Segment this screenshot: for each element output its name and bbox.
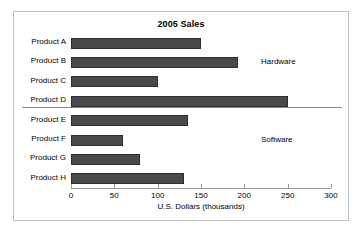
- bar-product-b[interactable]: [71, 57, 238, 68]
- x-axis-tick: [201, 184, 202, 188]
- bar-product-c[interactable]: [71, 76, 158, 87]
- x-axis-tick: [158, 184, 159, 188]
- category-label: Product A: [14, 37, 66, 46]
- bar-product-g[interactable]: [71, 154, 140, 165]
- x-axis-tick: [244, 184, 245, 188]
- category-label: Product D: [14, 95, 66, 104]
- bar-product-a[interactable]: [71, 38, 201, 49]
- table-row: Product G: [14, 150, 350, 169]
- bar-product-h[interactable]: [71, 173, 184, 184]
- x-axis-tick-label: 150: [186, 191, 216, 200]
- bar-product-d[interactable]: [71, 96, 288, 107]
- chart-figure: 2005 Sales Product A Product B Product C…: [13, 11, 349, 221]
- bar-product-e[interactable]: [71, 115, 188, 126]
- category-label: Product H: [14, 173, 66, 182]
- x-axis-tick: [71, 184, 72, 188]
- group-label-software: Software: [261, 135, 293, 144]
- table-row: Product C: [14, 73, 350, 92]
- x-axis-title: U.S. Dollars (thousands): [71, 202, 331, 211]
- plot-area: Product A Product B Product C Product D …: [14, 12, 350, 222]
- category-label: Product E: [14, 115, 66, 124]
- x-axis-tick: [331, 184, 332, 188]
- category-label: Product B: [14, 56, 66, 65]
- x-axis-tick-label: 0: [56, 191, 86, 200]
- category-label: Product G: [14, 153, 66, 162]
- table-row: Product E: [14, 112, 350, 131]
- category-label: Product F: [14, 134, 66, 143]
- category-label: Product C: [14, 76, 66, 85]
- x-axis-line: [71, 188, 331, 189]
- x-axis-tick-label: 300: [316, 191, 346, 200]
- x-axis-tick-label: 100: [143, 191, 173, 200]
- bar-product-f[interactable]: [71, 135, 123, 146]
- group-divider: [22, 107, 342, 108]
- table-row: Product D: [14, 92, 350, 111]
- x-axis-tick: [114, 184, 115, 188]
- table-row: Product F: [14, 131, 350, 150]
- table-row: Product B: [14, 53, 350, 72]
- x-axis-tick-label: 200: [229, 191, 259, 200]
- x-axis-tick-label: 250: [273, 191, 303, 200]
- group-label-hardware: Hardware: [261, 57, 296, 66]
- table-row: Product A: [14, 34, 350, 53]
- x-axis-tick-label: 50: [99, 191, 129, 200]
- x-axis-tick: [288, 184, 289, 188]
- table-row: Product H: [14, 170, 350, 189]
